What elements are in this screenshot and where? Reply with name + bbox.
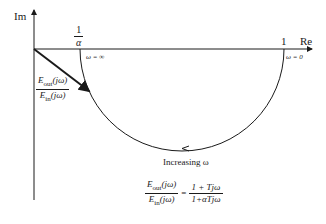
real-axis-label: Re bbox=[300, 36, 312, 47]
increasing-omega-label: Increasing ω bbox=[163, 158, 209, 167]
imag-axis-label: Im bbox=[14, 11, 26, 22]
tick-inv-alpha: 1 α bbox=[74, 25, 83, 48]
omega-infinity-label: ω = ∞ bbox=[86, 54, 104, 61]
frequency-locus bbox=[80, 49, 284, 151]
tick-one: 1 bbox=[281, 36, 287, 47]
transfer-equation: Eout(jω) Ein(jω) = 1 + Tjω 1+αTjω bbox=[145, 180, 223, 207]
direction-arrow-icon bbox=[182, 146, 189, 151]
omega-zero-label: ω = 0 bbox=[286, 54, 303, 61]
vector-label: Eout(jω) Ein(jω) bbox=[36, 76, 69, 103]
